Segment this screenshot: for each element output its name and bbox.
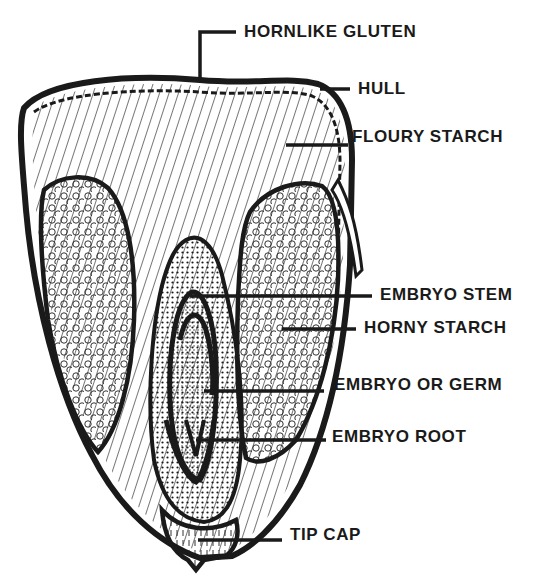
label-floury-starch: FLOURY STARCH — [352, 128, 503, 145]
label-tip-cap: TIP CAP — [290, 526, 361, 543]
leader-hornlike-gluten — [200, 32, 236, 80]
label-embryo-root: EMBRYO ROOT — [332, 428, 466, 445]
label-hornlike-gluten: HORNLIKE GLUTEN — [244, 23, 416, 40]
label-hull: HULL — [358, 80, 406, 97]
label-embryo-stem: EMBRYO STEM — [380, 286, 513, 303]
label-horny-starch: HORNY STARCH — [364, 319, 507, 336]
label-embryo-or-germ: EMBRYO OR GERM — [334, 376, 502, 393]
horny-starch-left — [41, 177, 134, 452]
